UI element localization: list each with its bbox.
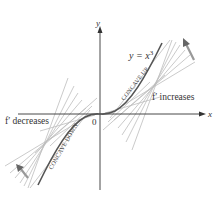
- x-axis-arrow-icon: [199, 112, 206, 117]
- f-prime-increases-label: f′ increases: [152, 92, 195, 102]
- x-axis-label: x: [207, 109, 212, 119]
- cubic-graph-diagram: y x 0 y = x3 f′ increases f′ decreases C…: [0, 0, 220, 202]
- tangent-lines-left: [5, 78, 97, 188]
- f-prime-decreases-label: f′ decreases: [5, 116, 49, 126]
- direction-arrow-down-left-icon: [16, 164, 28, 178]
- function-label: y = x3: [128, 49, 154, 61]
- y-axis-label: y: [95, 18, 100, 28]
- origin-label: 0: [92, 117, 97, 127]
- concave-down-label: CONCAVE DOWN: [47, 121, 79, 170]
